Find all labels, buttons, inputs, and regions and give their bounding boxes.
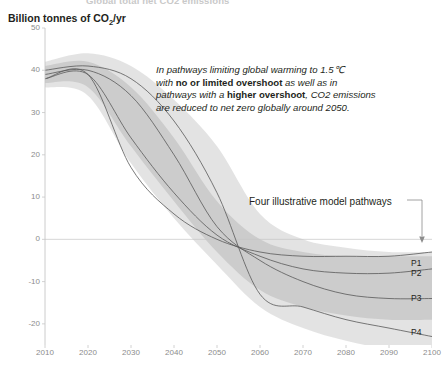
annotation-line-3b: , CO2 emissions (305, 89, 375, 100)
x-tick-label: 2080 (326, 348, 366, 357)
y-tick-label: -20 (14, 319, 40, 328)
x-tick-label: 2090 (369, 348, 409, 357)
annotation-bold-no-overshoot: no or limited overshoot (176, 77, 283, 88)
chart-annotation: In pathways limiting global warming to 1… (156, 64, 406, 114)
annotation-line-2a: with (156, 77, 176, 88)
y-tick-label: 10 (14, 192, 40, 201)
y-tick-label: 30 (14, 108, 40, 117)
callout-label: Four illustrative model pathways (249, 196, 392, 207)
x-tick-label: 2050 (197, 348, 237, 357)
annotation-line-3a: pathways with a (156, 89, 227, 100)
x-tick-label: 2040 (154, 348, 194, 357)
y-tick-label: 0 (14, 234, 40, 243)
x-tick-label: 2020 (68, 348, 108, 357)
x-tick-label: 2030 (111, 348, 151, 357)
annotation-line-2b: as well as in (282, 77, 337, 88)
y-tick-label: -10 (14, 277, 40, 286)
pathway-label-P1: P1 (411, 258, 421, 268)
pathway-label-P4: P4 (411, 327, 421, 337)
x-tick-label: 2100 (412, 348, 446, 357)
y-tick-label: 50 (14, 23, 40, 32)
pathway-label-P3: P3 (411, 293, 421, 303)
annotation-line-4: are reduced to net zero globally around … (156, 102, 350, 113)
x-tick-label: 2010 (25, 348, 65, 357)
y-tick-label: 20 (14, 150, 40, 159)
annotation-degree-symbol: ℃ (334, 64, 345, 75)
x-tick-label: 2070 (283, 348, 323, 357)
annotation-line-1a: In pathways limiting global warming to 1… (156, 64, 334, 75)
callout-leader-line (407, 200, 425, 243)
annotation-bold-higher-overshoot: higher overshoot (227, 89, 305, 100)
y-tick-label: 40 (14, 65, 40, 74)
pathway-label-P2: P2 (411, 268, 421, 278)
x-tick-label: 2060 (240, 348, 280, 357)
